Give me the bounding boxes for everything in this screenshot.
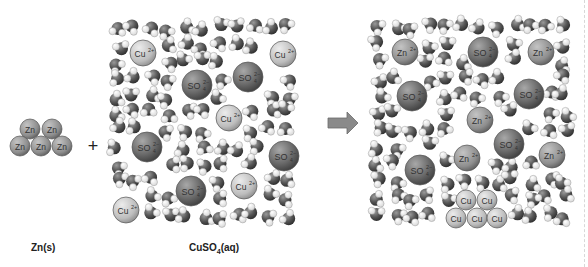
water-molecule bbox=[437, 122, 453, 137]
water-molecule bbox=[420, 187, 434, 204]
water-molecule bbox=[419, 120, 434, 136]
svg-text:2+: 2+ bbox=[234, 112, 240, 118]
svg-text:SO: SO bbox=[181, 187, 194, 197]
water-molecule bbox=[161, 109, 178, 123]
water-molecule bbox=[126, 118, 141, 135]
water-molecule bbox=[250, 138, 264, 155]
zinc-ion: Zn2+ bbox=[392, 39, 418, 65]
water-molecule bbox=[368, 207, 385, 221]
svg-text:Zn: Zn bbox=[15, 142, 25, 152]
svg-text:4: 4 bbox=[426, 171, 429, 177]
water-molecule bbox=[441, 176, 455, 193]
copper-ion: Cu2+ bbox=[113, 197, 139, 223]
svg-text:4: 4 bbox=[418, 97, 421, 103]
svg-text:4: 4 bbox=[197, 192, 200, 198]
water-molecule bbox=[166, 156, 180, 173]
zinc-atom: Zn bbox=[42, 119, 62, 139]
water-molecule bbox=[197, 159, 212, 176]
water-molecule bbox=[262, 18, 278, 34]
water-molecule bbox=[210, 36, 226, 52]
water-molecule bbox=[211, 89, 227, 105]
zinc-ion: Zn2+ bbox=[539, 142, 565, 168]
water-molecule bbox=[422, 40, 438, 55]
sulfate-ion: SO42− bbox=[397, 81, 427, 111]
water-molecule bbox=[473, 73, 489, 89]
zinc-atom: Zn bbox=[20, 119, 40, 139]
copper-sulfate-label: CuSO4(aq) bbox=[189, 242, 239, 255]
copper-atom: Cu bbox=[467, 208, 487, 228]
water-molecule bbox=[424, 75, 440, 90]
water-molecule bbox=[209, 176, 224, 192]
svg-text:2−: 2− bbox=[489, 46, 495, 52]
water-molecule bbox=[470, 91, 486, 107]
svg-text:SO: SO bbox=[274, 152, 287, 162]
water-molecule bbox=[144, 70, 160, 86]
svg-text:2+: 2+ bbox=[472, 152, 478, 158]
water-molecule bbox=[194, 51, 211, 65]
water-molecule bbox=[522, 120, 538, 136]
svg-text:2+: 2+ bbox=[249, 180, 255, 186]
zinc-ion: Zn2+ bbox=[528, 39, 554, 65]
water-molecule bbox=[227, 142, 243, 158]
water-molecule bbox=[112, 41, 129, 56]
water-molecule bbox=[110, 70, 124, 87]
water-molecule bbox=[229, 34, 244, 50]
water-molecule bbox=[453, 15, 468, 31]
water-molecule bbox=[526, 175, 541, 191]
svg-text:SO: SO bbox=[499, 140, 512, 150]
svg-text:2−: 2− bbox=[515, 138, 521, 144]
water-molecule bbox=[195, 127, 211, 143]
svg-text:SO: SO bbox=[473, 48, 486, 58]
water-molecule bbox=[553, 69, 569, 85]
svg-text:+: + bbox=[88, 136, 99, 156]
water-molecule bbox=[142, 22, 158, 37]
svg-text:SO: SO bbox=[410, 166, 423, 176]
water-molecule bbox=[522, 207, 537, 224]
water-molecule bbox=[561, 107, 577, 123]
svg-text:Cu: Cu bbox=[236, 182, 247, 192]
svg-text:2−: 2− bbox=[426, 164, 432, 170]
sulfate-ion: SO42− bbox=[132, 132, 162, 162]
water-molecule bbox=[246, 19, 263, 33]
water-molecule bbox=[107, 139, 121, 156]
water-molecule bbox=[140, 103, 157, 117]
water-molecule bbox=[279, 191, 293, 208]
water-molecule bbox=[368, 156, 383, 172]
copper-ion: Cu2+ bbox=[216, 105, 242, 131]
water-molecule bbox=[489, 68, 505, 84]
water-molecule bbox=[215, 74, 231, 90]
water-molecule bbox=[523, 18, 539, 34]
water-molecule bbox=[368, 35, 384, 51]
water-molecule bbox=[161, 75, 177, 91]
water-molecule bbox=[508, 204, 524, 220]
svg-text:SO: SO bbox=[519, 90, 532, 100]
water-molecule bbox=[401, 126, 417, 142]
water-molecule bbox=[368, 140, 383, 157]
svg-text:SO: SO bbox=[238, 73, 251, 83]
water-molecule bbox=[375, 88, 391, 104]
sulfate-ion: SO42− bbox=[494, 129, 524, 159]
water-molecule bbox=[264, 169, 280, 185]
water-molecule bbox=[369, 106, 386, 121]
water-molecule bbox=[540, 124, 557, 139]
sulfate-ion: SO42− bbox=[176, 176, 206, 206]
svg-text:Cu: Cu bbox=[221, 114, 232, 124]
water-molecule bbox=[241, 203, 257, 219]
water-molecule bbox=[435, 52, 452, 66]
svg-text:Cu: Cu bbox=[461, 196, 472, 206]
svg-text:2−: 2− bbox=[254, 71, 260, 77]
water-molecule bbox=[505, 49, 521, 65]
water-molecule bbox=[141, 171, 157, 186]
svg-text:Cu: Cu bbox=[482, 196, 493, 206]
water-molecule bbox=[214, 139, 230, 155]
water-molecule bbox=[123, 88, 140, 102]
water-molecule bbox=[371, 172, 386, 188]
water-molecule bbox=[262, 210, 277, 226]
water-molecule bbox=[214, 155, 228, 172]
water-molecule bbox=[279, 18, 295, 34]
water-molecule bbox=[556, 16, 570, 33]
water-molecule bbox=[386, 68, 401, 84]
water-molecule bbox=[493, 91, 509, 107]
water-molecule bbox=[538, 19, 554, 34]
svg-text:Zn: Zn bbox=[397, 48, 407, 58]
